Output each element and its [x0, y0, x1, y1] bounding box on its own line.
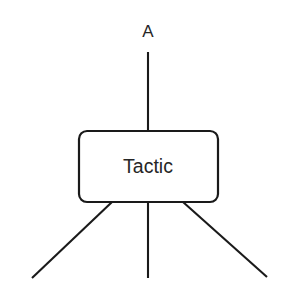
node-tactic-label: Tactic	[123, 155, 173, 177]
diagram-canvas: Tactic A	[0, 0, 292, 304]
edge-output-left	[32, 202, 112, 278]
edge-output-right	[183, 202, 267, 277]
port-label-a: A	[142, 22, 154, 41]
block-diagram: Tactic A	[0, 0, 292, 304]
